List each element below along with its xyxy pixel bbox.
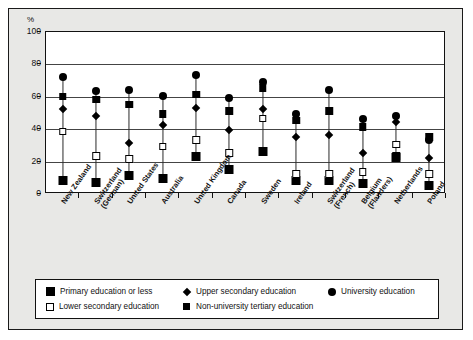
y-tick-mark-20 <box>37 161 41 162</box>
legend-marker-primary-icon <box>46 287 55 296</box>
legend-item-university[interactable]: University education <box>328 287 415 296</box>
data-point-nonuniv <box>392 152 400 160</box>
x-axis-category-labels: New ZealandSwitzerland(German)United Sta… <box>45 197 445 273</box>
data-point-upper <box>325 131 333 139</box>
data-point-university <box>92 87 100 95</box>
y-tick-mark-40 <box>37 128 41 129</box>
data-point-primary <box>58 176 67 185</box>
data-point-primary <box>158 174 167 183</box>
y-axis-unit-label: % <box>27 15 34 24</box>
data-point-university <box>225 94 233 102</box>
data-point-primary <box>192 152 201 161</box>
data-point-nonuniv <box>159 110 167 118</box>
legend-marker-upper-icon <box>182 287 190 295</box>
y-tick-mark-80 <box>37 63 41 64</box>
data-point-lower <box>326 170 334 178</box>
data-point-lower <box>126 155 134 163</box>
data-point-primary <box>92 178 101 187</box>
data-point-lower <box>426 170 434 178</box>
plot-area <box>45 31 445 193</box>
legend-marker-nonuniv-icon <box>183 303 190 310</box>
y-tick-mark-100 <box>37 31 41 32</box>
legend-marker-lower-icon <box>46 303 54 311</box>
data-point-university <box>125 86 133 94</box>
data-point-lower <box>392 141 400 149</box>
data-point-upper <box>92 111 100 119</box>
gridline-20 <box>46 162 444 163</box>
legend-marker-university-icon <box>328 288 336 296</box>
legend-item-lower[interactable]: Lower secondary education <box>46 302 159 311</box>
legend-label: Upper secondary education <box>196 287 296 296</box>
data-point-university <box>259 78 267 86</box>
legend-label: Primary education or less <box>60 287 152 296</box>
legend-label: Lower secondary education <box>59 302 159 311</box>
data-point-nonuniv <box>59 93 67 101</box>
legend-item-nonuniv[interactable]: Non-university tertiary education <box>182 302 313 311</box>
data-point-nonuniv <box>359 123 367 131</box>
category-stem <box>195 76 196 157</box>
gridline-40 <box>46 129 444 130</box>
chart-figure: % 020406080100 New ZealandSwitzerland(Ge… <box>8 8 463 330</box>
data-point-university <box>359 115 367 123</box>
data-point-university <box>159 92 167 100</box>
data-point-upper <box>192 103 200 111</box>
legend-label: Non-university tertiary education <box>196 302 313 311</box>
data-point-university <box>392 112 400 120</box>
legend-item-primary[interactable]: Primary education or less <box>46 287 152 296</box>
data-point-nonuniv <box>192 91 200 99</box>
data-point-primary <box>258 147 267 156</box>
data-point-university <box>325 86 333 94</box>
data-point-upper <box>258 105 266 113</box>
data-point-lower <box>292 170 300 178</box>
category-stem <box>95 92 96 183</box>
data-point-nonuniv <box>126 101 134 109</box>
data-point-university <box>192 71 200 79</box>
data-point-university <box>425 136 433 144</box>
gridline-60 <box>46 97 444 98</box>
data-point-upper <box>292 133 300 141</box>
data-point-university <box>59 73 67 81</box>
legend-label: University education <box>341 287 415 296</box>
category-stem <box>162 97 163 180</box>
y-tick-mark-0 <box>37 193 41 194</box>
y-tick-mark-60 <box>37 96 41 97</box>
legend-item-upper[interactable]: Upper secondary education <box>182 287 296 296</box>
data-point-nonuniv <box>92 96 100 104</box>
data-point-lower <box>92 152 100 160</box>
data-point-university <box>292 110 300 118</box>
data-point-upper <box>225 126 233 134</box>
data-point-upper <box>125 139 133 147</box>
x-tick-mark <box>445 193 446 198</box>
gridline-80 <box>46 64 444 65</box>
y-axis-tick-labels: 020406080100 <box>13 31 41 193</box>
data-point-upper <box>58 105 66 113</box>
data-point-nonuniv <box>326 107 334 115</box>
data-point-lower <box>159 143 167 151</box>
chart-legend: Primary education or lessUpper secondary… <box>35 279 439 319</box>
data-point-upper <box>358 149 366 157</box>
data-point-nonuniv <box>226 107 234 115</box>
data-point-lower <box>259 115 267 123</box>
data-point-lower <box>192 136 200 144</box>
data-point-lower <box>59 128 67 136</box>
